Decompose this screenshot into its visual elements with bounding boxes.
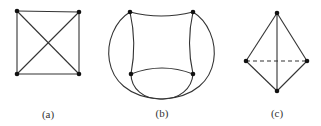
vertex [244,59,249,64]
edge-right [190,12,194,74]
figure-label-c: (c) [271,107,284,120]
diagram-canvas: (a) (b) (c) [0,0,321,126]
figure-label-b: (b) [156,107,169,120]
edge-top [17,11,79,12]
vertex [275,89,280,94]
edge-bottom-left [246,61,277,91]
edge-bottom [131,68,193,74]
vertex [191,72,196,77]
figure-a: (a) [15,9,82,121]
edge-bottom-right [277,61,307,91]
vertex [77,72,82,77]
figure-label-a: (a) [42,108,55,121]
figure-c: (c) [244,11,310,120]
vertex [15,72,20,77]
edge-top [130,12,193,16]
vertex [15,9,20,14]
edge-outer-left [109,12,193,99]
vertex [305,59,310,64]
vertex [77,10,82,15]
vertex [128,10,133,15]
vertex [129,72,134,77]
vertex [191,10,196,15]
figure-b: (b) [109,10,215,120]
edge-outer-right [131,12,214,99]
vertex [275,11,280,16]
edge-top-right [277,13,307,61]
edge-left [130,12,134,74]
edge-top-left [246,13,277,61]
